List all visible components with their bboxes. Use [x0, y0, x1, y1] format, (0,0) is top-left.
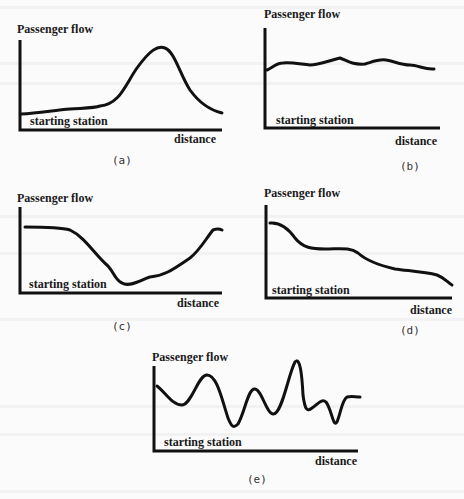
data-line	[270, 223, 452, 285]
data-line	[21, 47, 222, 114]
panel-a: Passenger flow starting station distance…	[17, 22, 222, 167]
starting-station-label: starting station	[164, 435, 242, 449]
x-axis-label: distance	[177, 296, 220, 310]
panel-b: Passenger flow starting station distance…	[264, 7, 440, 173]
x-axis-label: distance	[315, 454, 358, 468]
y-axis-label: Passenger flow	[264, 186, 340, 200]
panel-caption: (b)	[400, 160, 420, 173]
x-axis-label: distance	[395, 134, 438, 148]
data-line	[157, 361, 360, 427]
y-axis-label: Passenger flow	[17, 191, 93, 205]
panel-d: Passenger flow starting station distance…	[264, 186, 453, 337]
y-axis-label: Passenger flow	[17, 22, 93, 36]
panel-caption: (e)	[247, 473, 267, 486]
figure: Passenger flow starting station distance…	[0, 0, 464, 499]
starting-station-label: starting station	[30, 114, 108, 128]
y-axis-label: Passenger flow	[264, 7, 340, 21]
panel-c: Passenger flow starting station distance…	[17, 191, 222, 333]
data-line	[25, 227, 222, 284]
panel-e: Passenger flow starting station distance…	[152, 350, 360, 486]
panel-caption: (a)	[112, 154, 132, 167]
x-axis-label: distance	[410, 303, 453, 317]
x-axis-label: distance	[174, 132, 217, 146]
starting-station-label: starting station	[29, 277, 107, 291]
starting-station-label: starting station	[272, 283, 350, 297]
y-axis-label: Passenger flow	[152, 350, 228, 364]
panel-caption: (c)	[112, 320, 132, 333]
starting-station-label: starting station	[276, 113, 354, 127]
data-line	[267, 58, 434, 70]
panel-caption: (d)	[400, 324, 420, 337]
